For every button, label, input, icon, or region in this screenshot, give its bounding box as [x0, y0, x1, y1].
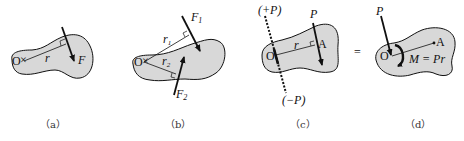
radius-label: r: [294, 38, 299, 52]
f2-label: F2: [175, 87, 187, 102]
caption-c: （c）: [290, 119, 316, 130]
caption-d: （d）: [405, 119, 431, 130]
panel-b: O × r1 r2 F1 F2 （b）: [133, 10, 225, 130]
caption-a: （a）: [40, 119, 66, 130]
force-p-label: P: [375, 4, 384, 18]
point-a-label: A: [318, 37, 327, 51]
f1-label: F1: [190, 10, 202, 25]
force-label: F: [77, 53, 86, 67]
panel-a: O × r F （a）: [12, 27, 93, 130]
force-p-label: P: [309, 7, 318, 21]
radius-label: r: [45, 51, 50, 65]
origin-label: O: [266, 49, 275, 63]
plus-p-label: (+P): [258, 3, 281, 17]
equals-sign: =: [354, 45, 361, 59]
point-a-label: A: [436, 35, 445, 49]
panel-d: O A P M = Pr （d）: [375, 4, 455, 130]
minus-p-label: (−P): [282, 93, 305, 107]
caption-b: （b）: [165, 119, 191, 130]
moment-label: M = Pr: [408, 52, 445, 66]
panel-c: O r A P (+P) (−P) （c）: [258, 3, 338, 130]
r1-label: r1: [163, 32, 171, 47]
origin-cross-icon: ×: [20, 53, 27, 67]
origin-cross-icon: ×: [142, 54, 149, 68]
force-moment-diagram: O × r F （a） O × r1 r2 F1 F2 （b） O r A P …: [0, 0, 464, 141]
point-a-dot: [433, 42, 436, 45]
origin-label: O: [380, 49, 389, 63]
